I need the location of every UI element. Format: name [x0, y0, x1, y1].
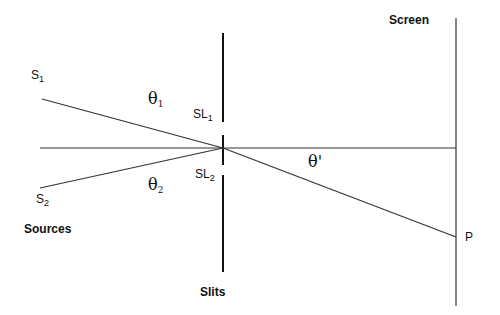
label-sl1: SL1: [193, 107, 213, 123]
ray-to-p: [223, 148, 456, 237]
label-s1: S1: [31, 68, 44, 84]
diagram-canvas: [0, 0, 500, 315]
label-s2: S2: [36, 192, 49, 208]
label-sources: Sources: [24, 222, 71, 236]
label-screen: Screen: [389, 13, 429, 27]
label-theta1: θ1: [148, 89, 163, 109]
label-theta-prime: θ': [308, 152, 322, 171]
label-sl2: SL2: [195, 167, 215, 183]
label-slits: Slits: [200, 285, 225, 299]
label-p: P: [465, 230, 473, 244]
label-theta2: θ2: [148, 175, 163, 195]
